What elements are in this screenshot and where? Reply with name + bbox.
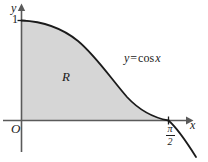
region-label-R: R <box>62 70 70 83</box>
x-axis-label: x <box>190 119 195 131</box>
fraction-denominator: 2 <box>162 137 178 148</box>
curve-equation-label: y=cos x <box>124 52 160 64</box>
arrow-up-icon <box>18 4 25 12</box>
curve-equation-variable: x <box>155 51 160 65</box>
figure-container: y 1 O R x y=cos x π 2 <box>0 0 208 162</box>
shaded-region-R <box>22 21 169 121</box>
curve-equation-equals: = <box>129 51 138 65</box>
origin-label: O <box>11 122 20 135</box>
curve-equation-function: cos <box>138 51 154 65</box>
fraction-numerator: π <box>162 124 178 135</box>
x-tick-label-pi-over-two: π 2 <box>162 124 178 147</box>
y-tick-label-one: 1 <box>12 13 18 25</box>
